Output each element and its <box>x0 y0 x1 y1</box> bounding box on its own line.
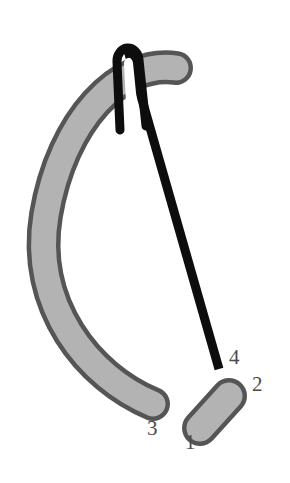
callout-label-3: 3 <box>147 418 158 439</box>
curved-gray-band-shape <box>44 67 176 404</box>
callout-label-4: 4 <box>229 347 240 368</box>
callout-label-2: 2 <box>252 374 263 395</box>
figure-canvas: 1 2 3 4 <box>0 0 290 483</box>
diagram-illustration <box>0 0 290 483</box>
callout-label-1: 1 <box>185 432 196 453</box>
